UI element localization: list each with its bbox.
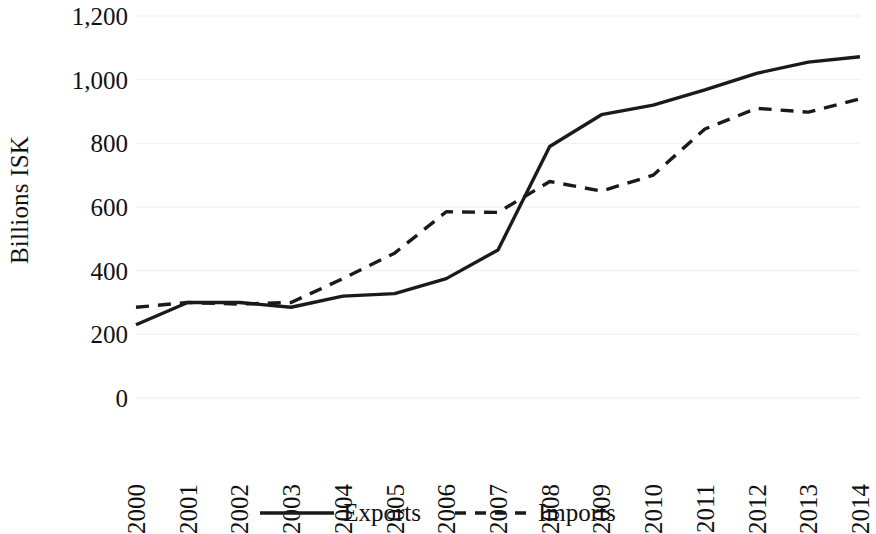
chart-legend: ExportsImports: [0, 494, 876, 531]
y-axis-tick-label: 400: [20, 258, 128, 283]
y-axis-tick-label: 1,000: [20, 67, 128, 92]
plot-svg: [136, 16, 860, 398]
y-axis-tick-labels: 02004006008001,0001,200: [20, 0, 128, 531]
legend-item-exports[interactable]: Exports: [260, 500, 421, 525]
y-axis-tick-label: 600: [20, 195, 128, 220]
series-line-exports: [136, 57, 860, 325]
plot-area: [136, 16, 860, 398]
series-line-imports: [136, 99, 860, 308]
x-axis-tick-labels: 2000200120022003200420052006200720082009…: [136, 398, 860, 488]
legend-label: Imports: [538, 500, 616, 525]
y-axis-tick-label: 1,200: [20, 4, 128, 29]
legend-swatch-solid-line-icon: [260, 506, 334, 520]
y-axis-tick-label: 800: [20, 131, 128, 156]
y-axis-tick-label: 200: [20, 322, 128, 347]
legend-swatch-dashed-line-icon: [455, 506, 529, 520]
y-axis-tick-label: 0: [20, 386, 128, 411]
legend-label: Exports: [343, 500, 421, 525]
legend-item-imports[interactable]: Imports: [455, 500, 616, 525]
